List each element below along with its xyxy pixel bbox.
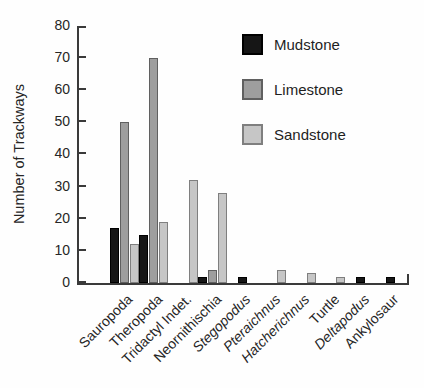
y-tick-label-20: 20 [38,210,70,226]
y-tick-label-70: 70 [38,49,70,65]
legend-swatch-mudstone [242,34,263,55]
bar-sauropoda-limestone [120,122,129,283]
bar-theropoda-limestone [149,58,158,283]
y-axis-title: Number of Trackways [11,84,27,224]
y-tick-30 [79,185,86,187]
trackways-bar-chart: Number of Trackways MudstoneLimestoneSan… [0,0,424,388]
bar-theropoda-sandstone [159,222,168,283]
y-tick-label-80: 80 [38,17,70,33]
y-tick-label-10: 10 [38,242,70,258]
legend-item-limestone: Limestone [242,79,346,100]
legend-swatch-limestone [242,79,263,100]
legend-label-limestone: Limestone [274,81,343,98]
y-tick-40 [79,152,86,154]
legend-swatch-sandstone [242,124,263,145]
y-tick-50 [79,120,86,122]
legend: MudstoneLimestoneSandstone [242,34,346,145]
bar-theropoda-mudstone [139,235,148,283]
y-tick-10 [79,249,86,251]
legend-label-mudstone: Mudstone [274,36,340,53]
bar-neornithischia-limestone [208,270,217,283]
y-tick-20 [79,217,86,219]
bar-tridactyl-indet-sandstone [189,180,198,283]
y-tick-80 [79,26,86,28]
y-tick-label-40: 40 [38,145,70,161]
y-tick-0 [79,281,86,283]
legend-item-sandstone: Sandstone [242,124,346,145]
bar-ankylosaur-mudstone [386,277,395,283]
bar-turtle-sandstone [336,277,345,283]
y-tick-70 [79,56,86,58]
y-tick-label-0: 0 [38,274,70,290]
y-tick-label-50: 50 [38,113,70,129]
y-tick-60 [79,88,86,90]
x-axis-end-tick [407,274,409,283]
bar-stegopodus-mudstone [238,277,247,283]
bar-neornithischia-mudstone [198,277,207,283]
legend-item-mudstone: Mudstone [242,34,346,55]
bar-neornithischia-sandstone [218,193,227,283]
y-tick-label-60: 60 [38,81,70,97]
bar-sauropoda-mudstone [110,228,119,283]
bar-hatcherichnus-sandstone [307,273,316,283]
legend-label-sandstone: Sandstone [274,126,346,143]
bar-pteraichnus-sandstone [277,270,286,283]
y-tick-label-30: 30 [38,178,70,194]
bar-sauropoda-sandstone [130,244,139,283]
bar-deltapodus-mudstone [356,277,365,283]
